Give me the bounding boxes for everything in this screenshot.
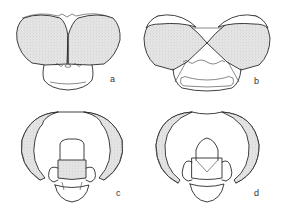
- panel-a: a: [17, 14, 120, 90]
- right-compound-eye: [68, 15, 120, 65]
- maxilla-left: [49, 167, 58, 182]
- left-compound-eye: [17, 15, 68, 65]
- maxilla-right: [86, 167, 95, 182]
- panel-c: c: [21, 112, 122, 202]
- chin-lobes: [62, 182, 82, 190]
- panel-label-c: c: [116, 188, 121, 198]
- figure-canvas: a b: [0, 0, 287, 215]
- labrum: [181, 77, 234, 88]
- ocellus: [65, 65, 71, 68]
- occiput-top: [192, 112, 222, 114]
- chin: [55, 185, 89, 202]
- frons-sutures: [183, 60, 225, 64]
- left-eye-margin: [156, 112, 192, 183]
- panel-label-a: a: [110, 74, 115, 84]
- prementum: [192, 158, 222, 180]
- maxilla-left: [182, 161, 192, 181]
- right-eye-margin: [84, 112, 123, 180]
- panel-d: d: [156, 112, 259, 202]
- panel-b: b: [144, 15, 270, 91]
- face-frons: [43, 65, 93, 90]
- clypeus-line: [50, 82, 86, 84]
- panel-label-d: d: [254, 188, 259, 198]
- prementum-v: [196, 160, 218, 172]
- labium-upper: [196, 138, 218, 160]
- insect-head-figure: a b: [0, 0, 287, 215]
- labium-upper: [60, 139, 84, 160]
- panel-label-b: b: [254, 76, 259, 86]
- chin: [190, 184, 224, 202]
- left-eye-margin: [21, 112, 58, 180]
- maxilla-right: [222, 161, 232, 181]
- right-eye-margin: [222, 112, 259, 183]
- prementum: [58, 160, 86, 180]
